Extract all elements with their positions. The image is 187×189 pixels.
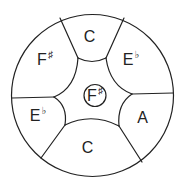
divider-right	[132, 93, 173, 94]
note-name: F	[37, 51, 47, 68]
note-right-eb: E♭	[123, 52, 139, 68]
flat-accidental: ♭	[41, 105, 46, 116]
arc-a	[119, 94, 132, 126]
arc-bottom-c	[65, 119, 119, 126]
sharp-accidental: ♯	[48, 49, 53, 60]
note-left-eb: E♭	[30, 108, 46, 124]
note-left-fsharp: F♯	[37, 52, 53, 68]
arc-left-fsharp	[54, 58, 78, 97]
note-bottom-c: C	[82, 140, 95, 156]
steelpan-diagram: C E♭ A C E♭ F♯ F♯	[0, 0, 187, 189]
note-name: E	[30, 107, 41, 124]
note-right-a: A	[137, 110, 149, 126]
note-name: C	[82, 139, 94, 156]
divider-bottom-right	[119, 126, 142, 162]
note-name: C	[84, 28, 96, 45]
flat-accidental: ♭	[134, 49, 139, 60]
note-top-c: C	[84, 29, 97, 45]
arc-top-c	[78, 58, 106, 62]
divider-bottom-left	[41, 125, 65, 158]
note-name: A	[137, 109, 148, 126]
divider-left	[12, 97, 54, 98]
arc-left-eb	[54, 97, 66, 125]
note-name: F	[87, 87, 97, 104]
note-name: E	[123, 51, 134, 68]
divider-top-left	[60, 18, 78, 58]
sharp-accidental: ♯	[98, 85, 103, 96]
divider-top-right	[106, 18, 124, 58]
note-center-fsharp: F♯	[87, 88, 103, 104]
